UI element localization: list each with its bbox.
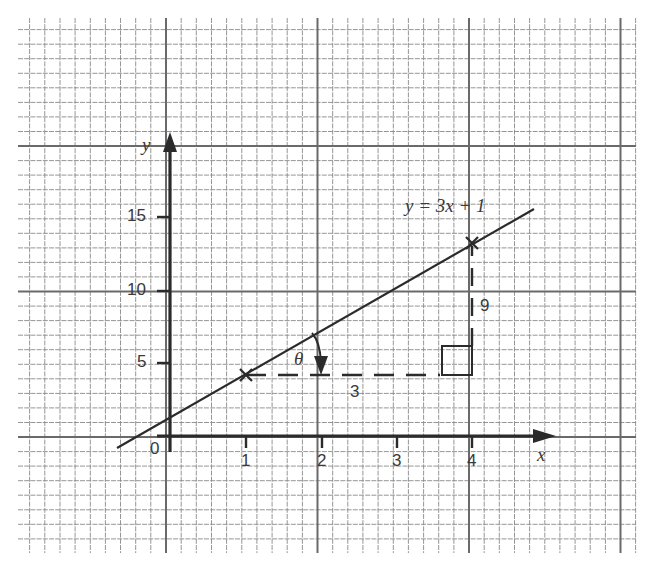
grid-major-lines	[18, 18, 636, 553]
grid-minor-lines	[18, 18, 636, 553]
x-axis-label: x	[537, 445, 545, 464]
equation-label: y = 3x + 1	[405, 196, 486, 215]
x-tick-label-4: 4	[467, 452, 476, 469]
origin-label: 0	[150, 440, 159, 457]
equation-text: y = 3x + 1	[405, 195, 486, 216]
x-tick-label-1: 1	[241, 452, 250, 469]
angle-arrow-icon	[314, 356, 328, 375]
graph-paper-figure: y x 0 15 10 5 1 2 3 4 y = 3x + 1 θ 3 9	[0, 0, 652, 566]
y-tick-label-5: 5	[137, 353, 146, 370]
run-label: 3	[350, 383, 359, 400]
y-axis-label: y	[142, 135, 150, 154]
angle-theta-label: θ	[294, 349, 303, 368]
right-angle-marker	[442, 346, 472, 375]
graph-canvas	[0, 0, 652, 566]
x-tick-label-3: 3	[392, 452, 401, 469]
x-tick-label-2: 2	[317, 452, 326, 469]
x-axis	[157, 429, 556, 448]
y-tick-label-10: 10	[127, 281, 146, 298]
y-tick-label-15: 15	[127, 207, 146, 224]
rise-label: 9	[480, 297, 489, 314]
